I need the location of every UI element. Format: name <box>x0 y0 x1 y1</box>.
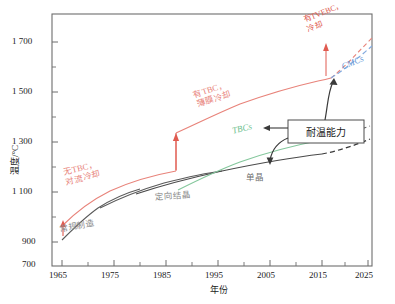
annotation-directional: 定向结晶 <box>154 187 191 201</box>
y-major-ticks <box>52 42 58 242</box>
x-minor-ticks <box>88 262 345 266</box>
x-tick-2025: 2025 <box>355 270 373 280</box>
series-with-tbc-tail <box>318 78 331 81</box>
x-tick-1995: 1995 <box>205 270 223 280</box>
annotation-single-crystal: 单晶 <box>246 170 264 182</box>
x-tick-1965: 1965 <box>49 270 67 280</box>
annotation-callout-label: 耐温能力 <box>292 124 360 139</box>
temperature-capability-chart <box>0 0 395 304</box>
callout-arrowhead-left <box>263 125 270 131</box>
callout-arrow-down <box>270 138 288 160</box>
y-tick-1500: 1 500 <box>12 86 32 96</box>
y-tick-700: 700 <box>22 259 36 269</box>
x-tick-1985: 1985 <box>153 270 171 280</box>
y-tick-1100: 1 100 <box>12 186 32 196</box>
x-major-ticks <box>62 260 368 266</box>
y-tick-1700: 1 700 <box>12 36 32 46</box>
y-tick-900: 900 <box>22 236 36 246</box>
x-axis-title: 年份 <box>205 283 233 296</box>
x-tick-1975: 1975 <box>101 270 119 280</box>
x-tick-2015: 2015 <box>309 270 327 280</box>
callout-arrowhead-up <box>330 78 338 85</box>
callout-arrow-up <box>325 82 333 120</box>
x-tick-2005: 2005 <box>257 270 275 280</box>
y-axis-title: 温度/°C <box>8 145 21 175</box>
